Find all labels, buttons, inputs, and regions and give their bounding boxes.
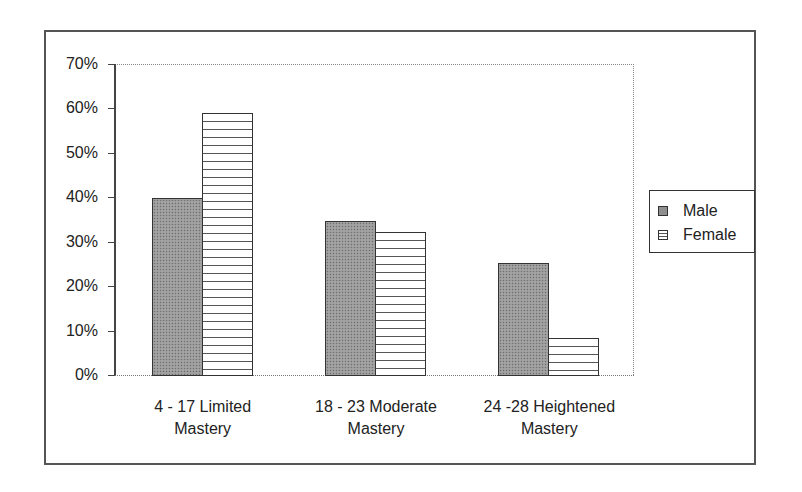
bar-female <box>375 232 426 376</box>
y-tick <box>108 242 115 243</box>
y-tick-label: 10% <box>52 323 98 339</box>
y-axis <box>114 64 116 376</box>
y-tick-label: 0% <box>52 367 98 383</box>
y-tick <box>108 375 115 376</box>
bar-female <box>202 113 253 376</box>
x-category-label: 24 -28 HeightenedMastery <box>464 396 634 440</box>
y-tick-label: 60% <box>52 100 98 116</box>
legend: Male Female <box>649 190 755 253</box>
legend-item-male: Male <box>658 201 718 221</box>
legend-label-female: Female <box>683 226 736 244</box>
y-tick <box>108 64 115 65</box>
y-tick <box>108 108 115 109</box>
y-tick <box>108 331 115 332</box>
female-swatch-icon <box>658 230 668 240</box>
y-tick-label: 50% <box>52 145 98 161</box>
bar-male <box>325 221 376 376</box>
bar-female <box>548 338 599 376</box>
y-tick-label: 20% <box>52 278 98 294</box>
bar-male <box>152 198 203 376</box>
y-tick-label: 70% <box>52 56 98 72</box>
bar-male <box>498 263 549 376</box>
y-tick-label: 40% <box>52 189 98 205</box>
x-category-label: 4 - 17 LimitedMastery <box>118 396 288 440</box>
legend-item-female: Female <box>658 225 736 245</box>
legend-label-male: Male <box>683 202 718 220</box>
x-category-label: 18 - 23 ModerateMastery <box>291 396 461 440</box>
y-tick <box>108 197 115 198</box>
y-tick <box>108 153 115 154</box>
y-tick <box>108 286 115 287</box>
male-swatch-icon <box>658 206 668 216</box>
y-tick-label: 30% <box>52 234 98 250</box>
